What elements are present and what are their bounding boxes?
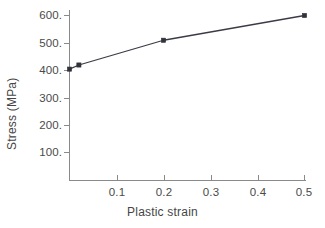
y-tick-label-500: 500. bbox=[26, 37, 62, 49]
data-point bbox=[67, 67, 71, 71]
x-tick-label-0.3: 0.3 bbox=[191, 186, 231, 198]
x-tick-label-0.4: 0.4 bbox=[238, 186, 278, 198]
data-point bbox=[161, 38, 165, 42]
data-point bbox=[77, 63, 81, 67]
x-tick-label-0.5: 0.5 bbox=[284, 186, 324, 198]
y-tick-label-600: 600. bbox=[26, 9, 62, 21]
y-axis-title-wrap: Stress (MPa) bbox=[2, 28, 20, 153]
y-tick-label-200: 200. bbox=[26, 119, 62, 131]
x-tick-label-0.1: 0.1 bbox=[97, 186, 137, 198]
y-tick-label-400: 400. bbox=[26, 64, 62, 76]
y-tick-label-100: 100. bbox=[26, 146, 62, 158]
chart-figure: 600. 500. 400. 300. 200. 100. 0.1 0.2 0.… bbox=[0, 0, 325, 228]
data-point bbox=[302, 13, 306, 17]
x-axis-title: Plastic strain bbox=[0, 205, 325, 219]
x-tick-label-0.2: 0.2 bbox=[144, 186, 184, 198]
data-series-line bbox=[70, 16, 305, 70]
y-axis-title: Stress (MPa) bbox=[5, 78, 19, 150]
y-tick-label-300: 300. bbox=[26, 92, 62, 104]
